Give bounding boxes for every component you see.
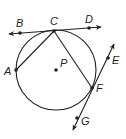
point-F [90, 86, 94, 90]
label-B: B [16, 17, 23, 29]
label-F: F [96, 82, 104, 94]
label-P: P [60, 57, 68, 69]
label-G: G [81, 115, 90, 127]
point-E [106, 56, 110, 60]
point-C [52, 29, 56, 33]
label-E: E [112, 54, 120, 66]
geometry-diagram: B C D A P E F G [0, 0, 126, 139]
point-D [87, 26, 91, 30]
point-G [75, 116, 79, 120]
point-B [18, 31, 22, 35]
point-P [54, 68, 58, 72]
point-A [14, 68, 18, 72]
label-A: A [3, 65, 11, 77]
label-C: C [50, 15, 58, 27]
label-D: D [85, 13, 93, 25]
